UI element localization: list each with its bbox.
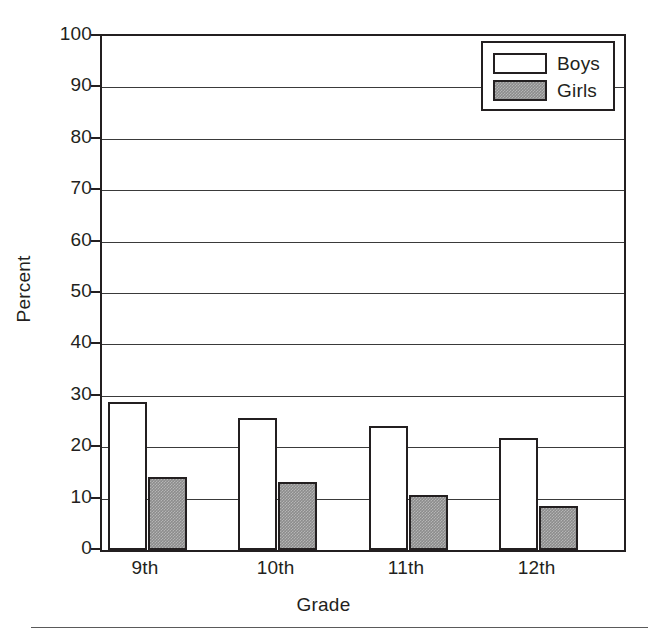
y-tick-label-10: 10 xyxy=(40,487,92,506)
bar-boys-12th xyxy=(499,438,538,550)
legend-item-girls: Girls xyxy=(493,78,597,102)
bar-girls-9th xyxy=(148,477,187,550)
plot-inner xyxy=(102,36,624,550)
gridline-70 xyxy=(102,190,624,191)
gridline-50 xyxy=(102,293,624,294)
y-tick-label-20: 20 xyxy=(40,435,92,454)
legend-label-girls: Girls xyxy=(557,81,597,100)
y-tick-mark-50 xyxy=(91,291,100,293)
bar-boys-10th xyxy=(238,418,277,550)
chart-legend: Boys Girls xyxy=(481,41,615,111)
gridline-60 xyxy=(102,242,624,243)
legend-label-boys: Boys xyxy=(557,54,600,73)
y-tick-label-50: 50 xyxy=(40,281,92,300)
y-tick-label-70: 70 xyxy=(40,178,92,197)
gridline-20 xyxy=(102,447,624,448)
y-axis-title: Percent xyxy=(13,239,35,339)
y-tick-label-100: 100 xyxy=(40,24,92,43)
y-tick-mark-20 xyxy=(91,445,100,447)
x-tick-label-10th: 10th xyxy=(216,557,336,579)
gridline-30 xyxy=(102,396,624,397)
legend-swatch-boys xyxy=(493,53,547,74)
x-tick-label-9th: 9th xyxy=(85,557,205,579)
legend-item-boys: Boys xyxy=(493,51,600,75)
y-tick-label-90: 90 xyxy=(40,75,92,94)
legend-swatch-girls xyxy=(493,80,547,101)
bar-boys-9th xyxy=(108,402,147,550)
y-tick-mark-0 xyxy=(91,548,100,550)
x-axis-title: Grade xyxy=(0,594,647,616)
x-tick-label-12th: 12th xyxy=(477,557,597,579)
bar-boys-11th xyxy=(369,426,408,550)
gridline-40 xyxy=(102,344,624,345)
x-tick-label-11th: 11th xyxy=(346,557,466,579)
y-tick-label-40: 40 xyxy=(40,332,92,351)
gridline-80 xyxy=(102,139,624,140)
y-tick-mark-90 xyxy=(91,85,100,87)
y-tick-mark-100 xyxy=(91,34,100,36)
y-tick-mark-60 xyxy=(91,240,100,242)
y-tick-mark-80 xyxy=(91,137,100,139)
plot-area xyxy=(100,34,626,552)
y-tick-mark-30 xyxy=(91,394,100,396)
y-tick-mark-40 xyxy=(91,342,100,344)
y-tick-label-30: 30 xyxy=(40,384,92,403)
bar-girls-11th xyxy=(409,495,448,551)
y-axis-tick-labels: 1009080706050403020100 xyxy=(36,0,92,641)
y-tick-label-60: 60 xyxy=(40,230,92,249)
y-tick-label-80: 80 xyxy=(40,127,92,146)
y-tick-mark-70 xyxy=(91,188,100,190)
y-tick-label-0: 0 xyxy=(40,538,92,557)
bar-girls-12th xyxy=(539,506,578,550)
y-tick-mark-10 xyxy=(91,497,100,499)
bar-girls-10th xyxy=(278,482,317,550)
bottom-divider xyxy=(31,627,648,628)
